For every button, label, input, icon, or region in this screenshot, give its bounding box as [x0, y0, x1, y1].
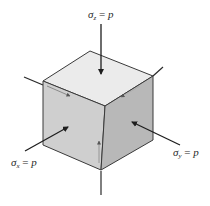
- equals: =: [182, 146, 194, 158]
- value: p: [192, 146, 199, 158]
- axis-stub-left: [24, 77, 43, 85]
- sigma-x-label: σx = p: [11, 156, 37, 170]
- axis-stub-right: [153, 67, 163, 76]
- sigma-z-label: σz = p: [88, 8, 114, 22]
- sigma-y-label: σy = p: [173, 146, 199, 160]
- equals: =: [96, 8, 108, 20]
- stress-cube-diagram: σz = p σx = p σy = p: [0, 0, 210, 206]
- value: p: [30, 156, 37, 168]
- equals: =: [20, 156, 32, 168]
- value: p: [107, 8, 114, 20]
